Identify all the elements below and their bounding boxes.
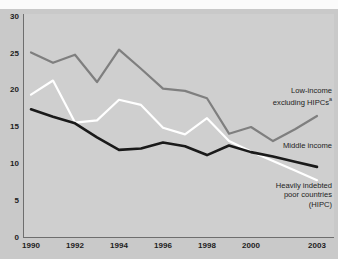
series-lines xyxy=(0,0,338,259)
annotation-low-income: Low-incomeexcluding HIPCsa xyxy=(273,86,332,107)
line-middle-income xyxy=(31,109,317,167)
chart-container: 051015202530 199019921994199619982000200… xyxy=(0,0,338,259)
footnote-marker: a xyxy=(329,96,332,102)
annotation-hipc: Heavily indebtedpoor countries(HIPC) xyxy=(276,181,332,209)
annotation-middle-income: Middle income xyxy=(283,141,332,150)
